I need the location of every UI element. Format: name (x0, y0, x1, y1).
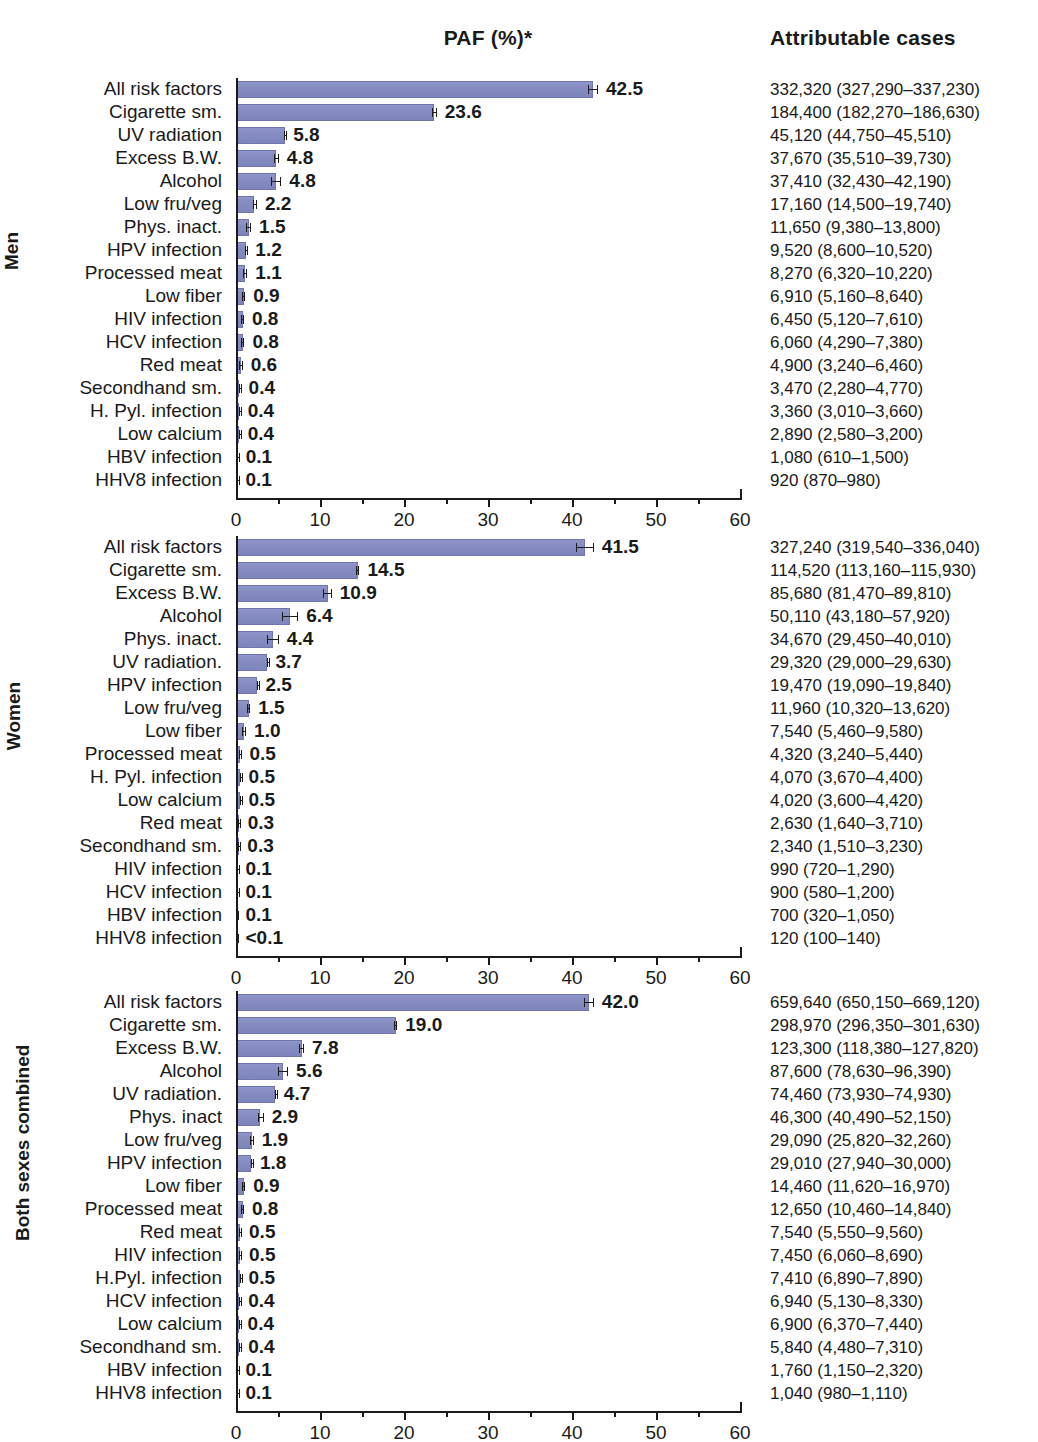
bar (236, 677, 257, 694)
table-row: HCV infection0.86,060 (4,290–7,380) (0, 331, 1038, 354)
bar-plot-cell: 0.4 (236, 1290, 740, 1313)
bar (236, 127, 285, 144)
attributable-cases-value: 37,670 (35,510–39,730) (770, 147, 1038, 170)
bar-value-label: 1.9 (262, 1129, 288, 1152)
attributable-cases-value: 6,910 (5,160–8,640) (770, 285, 1038, 308)
bar-plot-cell: 0.5 (236, 1244, 740, 1267)
bar-plot-cell: 10.9 (236, 582, 740, 605)
bar-value-label: 0.1 (246, 469, 272, 492)
attributable-cases-value: 4,320 (3,240–5,440) (770, 743, 1038, 766)
attributable-cases-value: 17,160 (14,500–19,740) (770, 193, 1038, 216)
attributable-cases-value: 8,270 (6,320–10,220) (770, 262, 1038, 285)
bar (236, 1109, 260, 1126)
attributable-cases-value: 184,400 (182,270–186,630) (770, 101, 1038, 124)
risk-factor-label: All risk factors (0, 991, 228, 1014)
bar-value-label: 1.5 (258, 697, 284, 720)
attributable-cases-value: 298,970 (296,350–301,630) (770, 1014, 1038, 1037)
bar-value-label: 1.1 (255, 262, 281, 285)
bar-value-label: 0.4 (248, 1336, 274, 1359)
risk-factor-label: Cigarette sm. (0, 101, 228, 124)
risk-factor-label: All risk factors (0, 536, 228, 559)
axis-minor-tick (446, 1411, 448, 1417)
attributable-cases-value: 6,940 (5,130–8,330) (770, 1290, 1038, 1313)
bar-value-label: 7.8 (312, 1037, 338, 1060)
axis-tick-label: 30 (458, 1422, 518, 1442)
axis-tick (320, 498, 322, 507)
error-bar (240, 1278, 243, 1279)
error-bar (241, 319, 244, 320)
table-row: Phys. inact2.946,300 (40,490–52,150) (0, 1106, 1038, 1129)
bar-plot-cell: 2.5 (236, 674, 740, 697)
risk-factor-label: Low calcium (0, 423, 228, 446)
bar-value-label: 42.0 (602, 991, 639, 1014)
table-row: Low fiber1.07,540 (5,460–9,580) (0, 720, 1038, 743)
axis-minor-tick (698, 498, 700, 504)
risk-factor-label: HCV infection (0, 331, 228, 354)
figure-root: PAF (%)* Attributable cases MenAll risk … (0, 0, 1038, 1442)
error-bar (241, 1209, 244, 1210)
axis-minor-tick (530, 956, 532, 962)
risk-factor-label: HHV8 infection (0, 469, 228, 492)
table-row: Red meat0.57,540 (5,550–9,560) (0, 1221, 1038, 1244)
bar-value-label: 0.1 (246, 1382, 272, 1405)
bar-value-label: 5.6 (296, 1060, 322, 1083)
table-row: H.Pyl. infection0.57,410 (6,890–7,890) (0, 1267, 1038, 1290)
error-bar (241, 342, 245, 343)
bar-value-label: <0.1 (246, 927, 284, 950)
table-row: HIV infection0.1990 (720–1,290) (0, 858, 1038, 881)
attributable-cases-value: 7,540 (5,550–9,560) (770, 1221, 1038, 1244)
risk-factor-label: Phys. inact. (0, 216, 228, 239)
bar-plot-cell: 0.5 (236, 1221, 740, 1244)
error-bar (257, 685, 260, 686)
bar (236, 173, 276, 190)
bar-value-label: 19.0 (405, 1014, 442, 1037)
table-row: UV radiation5.845,120 (44,750–45,510) (0, 124, 1038, 147)
axis-tick (572, 498, 574, 507)
table-row: Phys. inact.4.434,670 (29,450–40,010) (0, 628, 1038, 651)
bar-plot-cell: 0.1 (236, 881, 740, 904)
bar-plot-cell: 1.5 (236, 697, 740, 720)
error-bar (239, 1324, 242, 1325)
table-row: Secondhand sm.0.32,340 (1,510–3,230) (0, 835, 1038, 858)
risk-factor-label: UV radiation (0, 124, 228, 147)
risk-factor-label: HIV infection (0, 858, 228, 881)
bar-plot-cell: 0.5 (236, 1267, 740, 1290)
risk-factor-label: H.Pyl. infection (0, 1267, 228, 1290)
panel-men: MenAll risk factors42.5332,320 (327,290–… (0, 62, 1038, 522)
attributable-cases-value: 29,320 (29,000–29,630) (770, 651, 1038, 674)
bar-value-label: 0.5 (249, 1267, 275, 1290)
risk-factor-label: Low calcium (0, 789, 228, 812)
error-bar (239, 754, 242, 755)
attributable-cases-value: 11,960 (10,320–13,620) (770, 697, 1038, 720)
axis-minor-tick (278, 956, 280, 962)
bar-plot-cell: 0.8 (236, 1198, 740, 1221)
bar-plot-cell: 0.1 (236, 469, 740, 492)
axis-tick (656, 956, 658, 965)
risk-factor-label: Low fiber (0, 285, 228, 308)
bar-value-label: 0.4 (248, 1313, 274, 1336)
risk-factor-label: Low calcium (0, 1313, 228, 1336)
bar (236, 1017, 396, 1034)
table-row: HBV infection0.1700 (320–1,050) (0, 904, 1038, 927)
bar (236, 196, 254, 213)
bar-plot-cell: 0.8 (236, 308, 740, 331)
risk-factor-label: H. Pyl. infection (0, 400, 228, 423)
bar-value-label: 1.0 (254, 720, 280, 743)
bar (236, 654, 267, 671)
error-bar (282, 616, 298, 617)
table-row: Low calcium0.42,890 (2,580–3,200) (0, 423, 1038, 446)
bar-value-label: 0.8 (252, 1198, 278, 1221)
table-row: HIV infection0.57,450 (6,060–8,690) (0, 1244, 1038, 1267)
risk-factor-label: Low fru/veg (0, 1129, 228, 1152)
bar-value-label: 4.8 (289, 170, 315, 193)
table-row: Low calcium0.46,900 (6,370–7,440) (0, 1313, 1038, 1336)
error-bar (588, 89, 598, 90)
axis-tick (488, 1411, 490, 1420)
axis-minor-tick (614, 498, 616, 504)
risk-factor-label: Phys. inact (0, 1106, 228, 1129)
axis-minor-tick (278, 1411, 280, 1417)
bar-plot-cell: 23.6 (236, 101, 740, 124)
bar-value-label: 0.3 (248, 812, 274, 835)
axis-tick (572, 1411, 574, 1420)
axis-minor-tick (362, 498, 364, 504)
